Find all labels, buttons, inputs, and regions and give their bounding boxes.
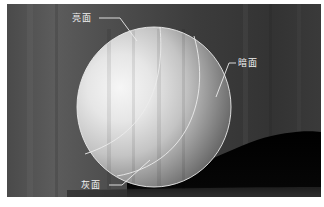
label-bright-side: 亮面 xyxy=(72,13,92,23)
photo-frame: 亮面 暗面 灰面 xyxy=(7,4,321,197)
sphere-illustration xyxy=(7,4,321,197)
label-gray-side: 灰面 xyxy=(81,180,101,190)
label-dark-side: 暗面 xyxy=(238,58,258,68)
